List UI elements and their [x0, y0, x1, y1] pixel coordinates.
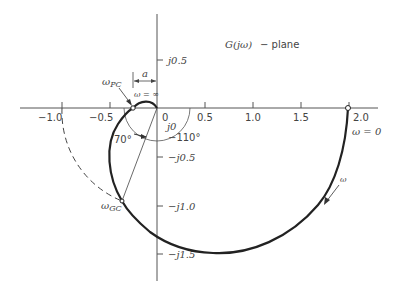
- a-dim-left-arrow-icon: [134, 79, 139, 83]
- a-dim-right-arrow-icon: [151, 79, 156, 83]
- a-label: a: [142, 68, 148, 79]
- omega-direction-label: ω: [340, 175, 347, 184]
- omega-pc-label: ωPC: [102, 76, 122, 89]
- omega-infinity-label: ω = ∞: [134, 90, 159, 99]
- omega-gc-point: [120, 199, 124, 203]
- plane-title: G(jω) − plane: [225, 34, 299, 51]
- omega-zero-label: ω = 0: [352, 126, 382, 137]
- omega-pc-arrowhead-icon: [126, 99, 132, 106]
- tick-label-05: 0.5: [197, 112, 213, 123]
- omega-zero-point: [346, 106, 351, 111]
- tick-label-2: 2.0: [353, 112, 369, 123]
- tick-label-negj05: −j0.5: [168, 152, 195, 163]
- omega-pc-point: [131, 106, 135, 110]
- tick-label-neg05: −0.5: [89, 112, 113, 123]
- nyquist-plot: −1.0 −0.5 0 0.5 1.0 1.5 2.0 j0.5 j0 −j0.…: [0, 0, 398, 291]
- angle-70-label: 70°: [114, 134, 132, 145]
- tick-label-negj1: −j1.0: [168, 201, 196, 212]
- real-axis-ticks: [62, 102, 349, 108]
- tick-label-j0: j0: [165, 121, 177, 132]
- nyquist-curve: [109, 102, 348, 254]
- tick-label-neg1: −1.0: [38, 112, 62, 123]
- angle-neg110-label: −110°: [168, 132, 200, 143]
- tick-label-15: 1.5: [293, 112, 309, 123]
- tick-label-1: 1.0: [245, 112, 261, 123]
- tick-label-j05: j0.5: [166, 55, 187, 66]
- nyquist-diagram: −1.0 −0.5 0 0.5 1.0 1.5 2.0 j0.5 j0 −j0.…: [0, 0, 398, 291]
- omega-gc-label: ωGC: [101, 200, 122, 213]
